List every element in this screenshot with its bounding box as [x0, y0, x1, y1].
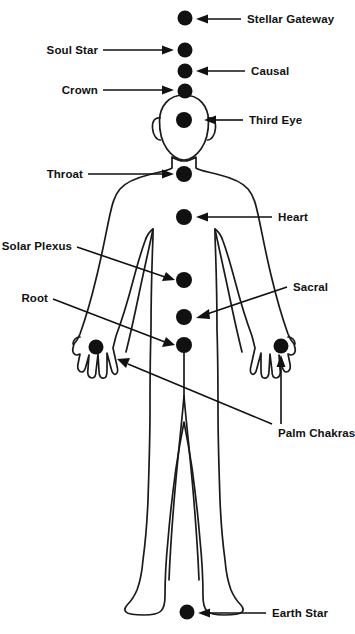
label-root: Root	[21, 292, 48, 304]
chakra-dot-heart[interactable]	[176, 209, 192, 225]
chakra-dot-root[interactable]	[176, 337, 192, 353]
chakra-dot-crown[interactable]	[178, 84, 193, 99]
chakra-dot-soul-star[interactable]	[178, 43, 193, 58]
label-third-eye: Third Eye	[249, 114, 302, 126]
chakra-dot-sacral[interactable]	[176, 309, 192, 325]
arrowhead-causal	[196, 67, 208, 76]
chakra-dot-stellar-gateway[interactable]	[178, 11, 193, 26]
arrowhead-soul-star	[162, 46, 174, 55]
chakra-dot-throat[interactable]	[176, 166, 192, 182]
chakra-dot-causal[interactable]	[178, 64, 193, 79]
chakra-dot-solar-plexus[interactable]	[176, 272, 192, 288]
label-crown: Crown	[62, 84, 98, 96]
label-throat: Throat	[47, 168, 83, 180]
chakra-dot-palm-left[interactable]	[89, 340, 104, 355]
label-soul-star: Soul Star	[47, 44, 99, 56]
label-heart: Heart	[278, 211, 308, 223]
label-solar-plexus: Solar Plexus	[2, 240, 72, 252]
arrowhead-crown	[162, 86, 174, 95]
label-causal: Causal	[251, 65, 289, 77]
chakra-diagram: Stellar Gateway Soul Star Causal Crown T…	[0, 0, 355, 634]
label-palm-chakras: Palm Chakras	[278, 427, 355, 439]
label-sacral: Sacral	[293, 281, 328, 293]
label-earth-star: Earth Star	[272, 607, 328, 619]
chakra-dot-earth-star[interactable]	[180, 605, 195, 620]
chakra-dot-third-eye[interactable]	[176, 112, 192, 128]
arrowhead-palm-left	[117, 358, 130, 368]
arrowhead-earth-star	[198, 609, 210, 618]
label-stellar-gateway: Stellar Gateway	[247, 13, 335, 25]
chakra-dot-palm-right[interactable]	[274, 339, 289, 354]
arrowhead-stellar-gateway	[196, 15, 208, 24]
